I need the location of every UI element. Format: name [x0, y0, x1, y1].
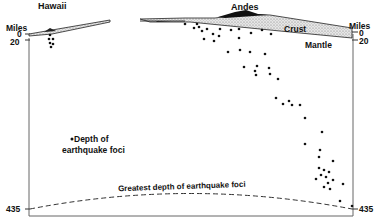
left-tick-20: 20	[10, 37, 19, 47]
crust-label: Crust	[284, 24, 306, 34]
legend-line-1: Depth of	[74, 134, 108, 145]
mantle-label: Mantle	[305, 40, 332, 50]
right-tick-435: 435	[359, 204, 373, 214]
hawaii-label: Hawaii	[38, 1, 67, 11]
andes-crust	[140, 10, 352, 38]
hawaii-crust	[29, 20, 110, 36]
andes-label: Andes	[231, 2, 259, 12]
left-tick-435: 435	[6, 204, 20, 214]
andes-foci	[184, 23, 354, 208]
hawaii-foci	[48, 34, 55, 49]
greatest-depth-curve	[30, 194, 352, 210]
legend-line-2: earthquake foci	[62, 145, 125, 156]
right-tick-20: 20	[359, 36, 368, 46]
